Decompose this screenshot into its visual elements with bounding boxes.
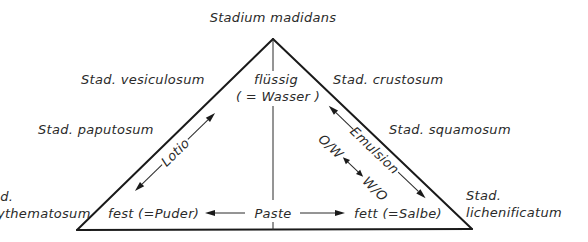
vertex-liquid-label: flüssig — [254, 72, 298, 87]
edge-lotio-label: Lotio — [158, 135, 192, 169]
vertex-ointment-label: fett (=Salbe) — [354, 206, 442, 221]
dermatology-phase-triangle-diagram: Stadium madidans flüssig ( = Wasser ) fe… — [0, 0, 588, 242]
ow-label: O/W — [315, 131, 346, 162]
title-stadium-madidans: Stadium madidans — [210, 10, 337, 25]
vertex-water-label: ( = Wasser ) — [236, 89, 320, 104]
wo-label: W/O — [360, 174, 391, 204]
edge-paste-label: Paste — [254, 206, 291, 221]
arrow-right-icon — [335, 210, 345, 216]
stage-crustosum: Stad. crustosum — [333, 72, 444, 87]
stage-paputosum: Stad. paputosum — [38, 122, 154, 137]
stage-erythematosum-line1: Stad. — [0, 189, 13, 204]
stage-erythematosum-line2: erythematosum — [0, 206, 91, 221]
stage-squamosum: Stad. squamosum — [389, 122, 511, 137]
stage-lichenificatum-line1: Stad. — [466, 188, 501, 203]
stage-vesiculosum: Stad. vesiculosum — [81, 72, 205, 87]
stage-lichenificatum-line2: lichenificatum — [466, 205, 562, 220]
triangle-base-edge — [77, 229, 472, 230]
ow-wo-group: O/W W/O — [315, 131, 390, 204]
vertex-powder-label: fest (=Puder) — [108, 206, 199, 221]
arrow-left-icon — [205, 210, 215, 216]
